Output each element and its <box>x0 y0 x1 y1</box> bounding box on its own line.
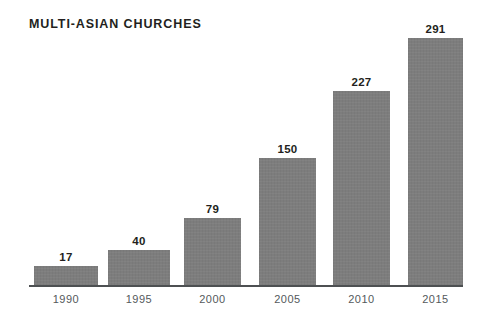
bar[interactable] <box>333 91 390 285</box>
bar-group: 291 2015 <box>408 0 463 325</box>
bar-group: 40 1995 <box>108 0 170 325</box>
bar-value-label: 40 <box>108 235 170 248</box>
bar-value-label: 79 <box>184 203 241 216</box>
x-axis-line <box>29 285 463 287</box>
x-axis-tick-label: 1990 <box>34 293 98 306</box>
bar[interactable] <box>259 158 316 285</box>
bar[interactable] <box>34 266 98 285</box>
bar-chart: MULTI-ASIAN CHURCHES 17 1990 40 1995 79 … <box>0 0 490 325</box>
plot-area: 17 1990 40 1995 79 2000 150 2005 227 201… <box>0 0 490 325</box>
x-axis-tick-label: 2005 <box>259 293 316 306</box>
bar-group: 17 1990 <box>34 0 98 325</box>
bar[interactable] <box>408 38 463 285</box>
bar-value-label: 291 <box>408 23 463 36</box>
x-axis-tick-label: 2015 <box>408 293 463 306</box>
x-axis-tick-label: 2000 <box>184 293 241 306</box>
bar-value-label: 150 <box>259 143 316 156</box>
bar-value-label: 17 <box>34 251 98 264</box>
bar[interactable] <box>108 250 170 285</box>
bar-group: 227 2010 <box>333 0 390 325</box>
x-axis-tick-label: 2010 <box>333 293 390 306</box>
bar-group: 150 2005 <box>259 0 316 325</box>
bar-value-label: 227 <box>333 76 390 89</box>
bar-group: 79 2000 <box>184 0 241 325</box>
x-axis-tick-label: 1995 <box>108 293 170 306</box>
bar[interactable] <box>184 218 241 285</box>
